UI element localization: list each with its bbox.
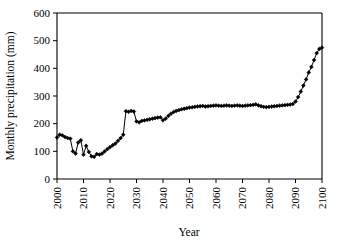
x-tick-label: 2070	[236, 187, 248, 210]
y-tick-label: 400	[34, 62, 51, 74]
x-tick-label: 2100	[316, 187, 328, 210]
x-tick-label: 2060	[210, 187, 222, 210]
x-tick-label: 2010	[77, 187, 89, 210]
y-tick-label: 500	[34, 34, 51, 46]
x-tick-label: 2080	[263, 187, 275, 210]
x-axis-title: Year	[178, 226, 199, 238]
y-tick-label: 0	[45, 173, 51, 185]
precipitation-chart-figure: 0100200300400500600 20002010202020302040…	[0, 0, 337, 246]
x-tick-label: 2030	[130, 187, 142, 210]
x-tick-label: 2000	[51, 187, 63, 210]
chart-canvas: 0100200300400500600 20002010202020302040…	[0, 0, 337, 246]
x-tick-label: 2020	[104, 187, 116, 210]
y-tick-label: 100	[34, 145, 51, 157]
y-axis-title: Monthly precipitation (mm)	[4, 31, 17, 160]
y-tick-label: 600	[34, 7, 51, 19]
x-tick-label: 2090	[289, 187, 301, 210]
y-tick-label: 300	[34, 90, 51, 102]
x-tick-label: 2050	[183, 187, 195, 210]
x-tick-label: 2040	[157, 187, 169, 210]
y-tick-label: 200	[34, 117, 51, 129]
